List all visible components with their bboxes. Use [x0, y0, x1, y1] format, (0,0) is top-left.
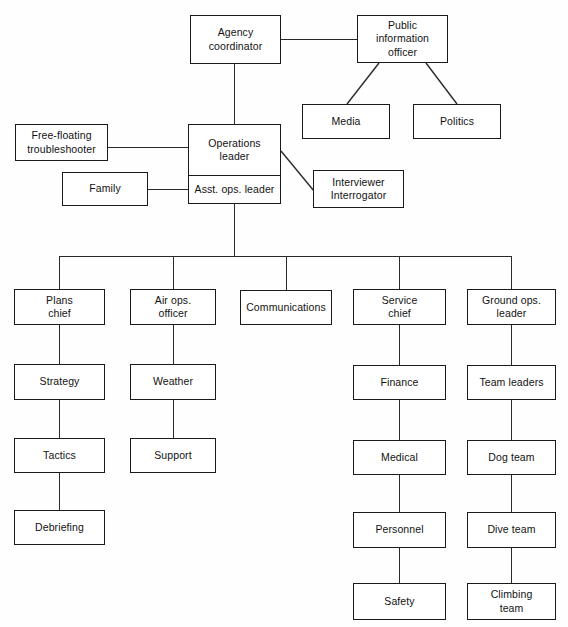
node-label: Climbing team [488, 588, 536, 615]
node-team-leaders[interactable]: Team leaders [467, 365, 556, 400]
node-label: Support [151, 449, 194, 462]
connector-pio-to-media [347, 63, 379, 104]
connector-operations-to-bus [234, 203, 235, 257]
node-strategy[interactable]: Strategy [14, 364, 105, 400]
node-label: Free-floating troubleshooter [24, 129, 99, 156]
node-service-chief[interactable]: Service chief [353, 289, 446, 325]
connector-dog-team-to-dive-team [511, 475, 512, 512]
node-label: Public information officer [373, 19, 432, 59]
node-label: Agency coordinator [206, 26, 266, 53]
connector-service-chief-to-finance [399, 325, 400, 365]
node-dive-team[interactable]: Dive team [467, 512, 556, 548]
node-ground-ops-leader[interactable]: Ground ops. leader [467, 289, 556, 325]
node-interviewer-interrogator[interactable]: Interviewer Interrogator [313, 170, 404, 208]
connector-bus-to-air-ops-officer [173, 256, 174, 289]
connector-bus-to-service-chief [399, 256, 400, 289]
node-label: Weather [150, 375, 196, 388]
node-agency-coordinator[interactable]: Agency coordinator [190, 15, 281, 64]
node-operations-leader-group[interactable]: Operations leader Asst. ops. leader [188, 124, 281, 204]
connector-weather-to-support [173, 400, 174, 438]
connector-ground-ops-leader-to-team-leaders [511, 325, 512, 365]
connector-personnel-to-safety [399, 548, 400, 583]
node-operations-leader[interactable]: Operations leader [189, 125, 280, 176]
connector-plans-chief-to-strategy [59, 325, 60, 364]
node-label: Politics [437, 115, 477, 128]
node-tactics[interactable]: Tactics [14, 438, 105, 473]
node-weather[interactable]: Weather [130, 364, 216, 400]
node-label: Interviewer Interrogator [328, 176, 389, 203]
node-label: Tactics [40, 449, 79, 462]
node-label: Air ops. officer [152, 294, 194, 321]
node-label: Dog team [485, 451, 537, 464]
node-label: Operations leader [205, 137, 263, 164]
node-label: Media [328, 115, 363, 128]
connector-strategy-to-tactics [59, 400, 60, 438]
node-asst-ops-leader[interactable]: Asst. ops. leader [189, 176, 280, 203]
connector-finance-to-medical [399, 400, 400, 440]
connector-coordinator-to-operations [234, 64, 235, 124]
node-debriefing[interactable]: Debriefing [14, 510, 105, 545]
node-label: Team leaders [476, 376, 546, 389]
node-label: Personnel [372, 523, 426, 536]
node-label: Service chief [379, 294, 421, 321]
node-label: Family [86, 182, 124, 195]
node-support[interactable]: Support [130, 438, 216, 473]
node-medical[interactable]: Medical [353, 440, 446, 475]
org-chart-canvas: Agency coordinator Public information of… [0, 0, 568, 627]
node-personnel[interactable]: Personnel [353, 512, 446, 548]
node-label: Safety [381, 595, 417, 608]
connector-coordinator-to-pio [281, 39, 357, 40]
node-label: Plans chief [43, 294, 76, 321]
node-plans-chief[interactable]: Plans chief [14, 289, 105, 325]
connector-troubleshooter-to-operations [108, 147, 188, 148]
connector-family-to-asst-ops [148, 189, 188, 190]
node-label: Finance [377, 376, 421, 389]
node-label: Ground ops. leader [479, 294, 544, 321]
node-public-information-officer[interactable]: Public information officer [357, 15, 448, 63]
connector-medical-to-personnel [399, 475, 400, 512]
connector-tactics-to-debriefing [59, 473, 60, 510]
node-label: Dive team [484, 523, 538, 536]
node-label: Medical [378, 451, 421, 464]
node-communications[interactable]: Communications [240, 290, 332, 325]
connector-bus-to-communications [286, 256, 287, 290]
connector-bus-to-ground-ops-leader [511, 256, 512, 289]
connector-operations-to-interviewer [281, 151, 314, 191]
node-free-floating-troubleshooter[interactable]: Free-floating troubleshooter [15, 124, 108, 161]
node-climbing-team[interactable]: Climbing team [467, 583, 556, 620]
connector-dive-team-to-climbing-team [511, 548, 512, 583]
node-politics[interactable]: Politics [413, 104, 501, 139]
connector-pio-to-politics [426, 63, 457, 104]
node-air-ops-officer[interactable]: Air ops. officer [130, 289, 216, 325]
node-finance[interactable]: Finance [353, 365, 446, 400]
node-dog-team[interactable]: Dog team [467, 440, 556, 475]
node-safety[interactable]: Safety [353, 583, 446, 620]
connector-air-ops-officer-to-weather [173, 325, 174, 364]
connector-team-leaders-to-dog-team [511, 400, 512, 440]
node-label: Debriefing [32, 521, 87, 534]
node-label: Asst. ops. leader [192, 183, 278, 196]
connector-bus-to-plans-chief [59, 256, 60, 289]
node-media[interactable]: Media [302, 104, 390, 139]
node-label: Communications [243, 301, 329, 314]
node-label: Strategy [37, 375, 83, 388]
node-family[interactable]: Family [62, 172, 148, 206]
